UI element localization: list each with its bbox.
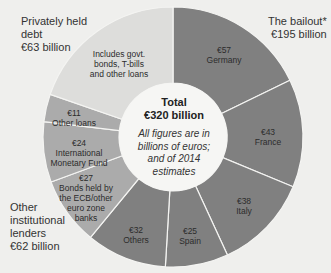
slice-note-line: Includes govt. [90,49,149,59]
center-note-line: billions of euros; [124,141,224,154]
center-title: Total [124,96,224,109]
slice-name-line: the ECB/other [59,193,113,203]
group-label-line: Privately held [21,15,87,28]
slice-name-line: euro zone [59,203,113,213]
center-note: All figures are in billions of euros; an… [124,128,224,178]
slice-name-line: Bonds held by [59,183,113,193]
group-label-bailout: The bailout* €195 billion [268,15,327,41]
group-label-private: Privately held debt €63 billion [21,15,87,54]
slice-name-line: banks [59,213,113,223]
group-label-line: Other [10,201,65,214]
center-note-line: and of 2014 [124,153,224,166]
slice-value: €43 [255,127,281,137]
group-total: €195 billion [268,28,327,41]
slice-label-germany: €57 Germany [207,45,242,65]
group-total: €63 billion [21,41,87,54]
slice-label-private: Includes govt. bonds, T-bills and other … [90,49,149,79]
slice-value: €38 [236,196,252,206]
slice-label-spain: €25 Spain [179,226,201,246]
slice-value: €25 [179,226,201,236]
slice-name: Italy [236,206,252,216]
slice-label-france: €43 France [255,127,281,147]
slice-label-imf: €24 International Monetary Fund [50,138,107,168]
slice-name: France [255,137,281,147]
slice-note-line: bonds, T-bills [90,59,149,69]
slice-label-other-loans: €11 Other loans [52,108,96,128]
center-note-line: estimates [124,166,224,179]
slice-note-line: and other loans [90,69,149,79]
slice-label-bonds: €27 Bonds held by the ECB/other euro zon… [59,173,113,223]
slice-value: €11 [52,108,96,118]
group-total: €62 billion [10,240,65,253]
slice-label-others: €32 Others [123,225,149,245]
group-label-line: lenders [10,227,65,240]
group-label-line: The bailout* [268,15,327,28]
slice-name-line: Monetary Fund [50,158,107,168]
slice-value: €32 [123,225,149,235]
donut-center: Total €320 billion All figures are in bi… [124,96,224,178]
slice-value: €57 [207,45,242,55]
slice-name-line: International [50,148,107,158]
group-label-line: institutional [10,214,65,227]
center-total: €320 billion [124,109,224,122]
slice-value: €27 [59,173,113,183]
slice-name: Others [123,235,149,245]
group-label-other-institutional: Other institutional lenders €62 billion [10,201,65,253]
slice-value: €24 [50,138,107,148]
slice-name: Germany [207,55,242,65]
slice-name: Spain [179,236,201,246]
slice-label-italy: €38 Italy [236,196,252,216]
center-note-line: All figures are in [124,128,224,141]
group-label-line: debt [21,28,87,41]
slice-name: Other loans [52,118,96,128]
